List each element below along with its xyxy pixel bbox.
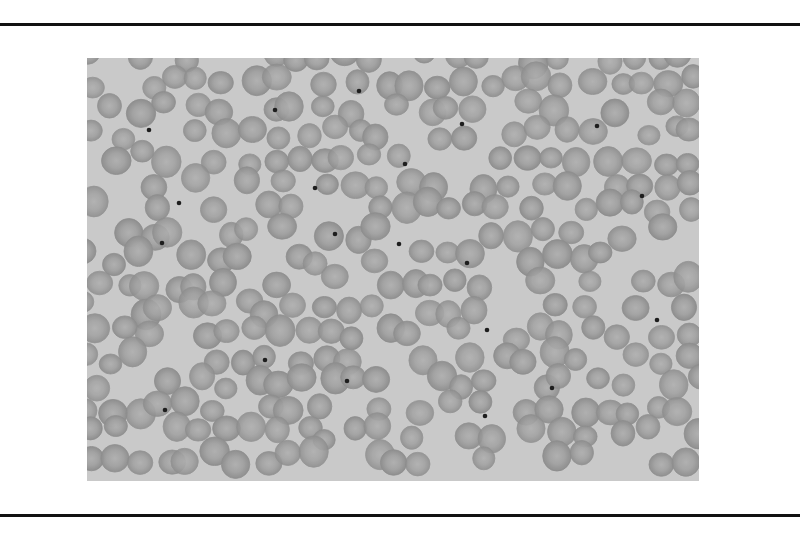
parasite-inclusion — [485, 328, 490, 333]
bottom-rule — [0, 514, 800, 517]
red-blood-cell — [517, 415, 545, 443]
red-blood-cell — [377, 271, 404, 299]
red-blood-cell — [649, 453, 674, 476]
parasite-inclusion — [403, 162, 408, 167]
red-blood-cell — [184, 67, 206, 89]
red-blood-cell — [311, 72, 337, 96]
red-blood-cell — [361, 249, 388, 273]
red-blood-cell — [288, 146, 312, 171]
red-blood-cell — [680, 198, 700, 222]
red-blood-cell — [543, 293, 567, 316]
red-blood-cell — [659, 370, 688, 400]
red-blood-cell — [275, 440, 301, 465]
red-blood-cell — [253, 345, 276, 368]
red-blood-cell — [579, 271, 601, 291]
red-blood-cell — [337, 297, 362, 324]
red-blood-cell — [242, 316, 267, 339]
red-blood-cell — [418, 274, 442, 296]
red-blood-cell — [363, 366, 390, 392]
red-blood-cell — [594, 147, 623, 177]
red-blood-cell — [87, 271, 113, 295]
red-blood-cell — [444, 269, 467, 292]
red-blood-cell — [267, 127, 290, 149]
red-blood-cell — [101, 445, 129, 473]
red-blood-cell — [223, 243, 251, 269]
red-blood-cell — [406, 400, 434, 425]
red-blood-cell — [262, 64, 291, 90]
red-blood-cell — [311, 96, 334, 117]
parasite-inclusion — [550, 386, 555, 391]
parasite-inclusion — [465, 261, 470, 266]
red-blood-cell — [621, 190, 644, 214]
red-blood-cell — [234, 167, 259, 194]
red-blood-cell — [119, 337, 147, 367]
parasite-inclusion — [177, 201, 182, 206]
parasite-inclusion — [163, 408, 168, 413]
red-blood-cell — [514, 146, 541, 171]
red-blood-cell — [521, 62, 551, 91]
parasite-inclusion — [460, 122, 465, 127]
red-blood-cell — [312, 296, 336, 317]
red-blood-cell — [459, 96, 486, 123]
red-blood-cell — [340, 327, 363, 350]
red-blood-cell — [364, 413, 391, 440]
red-blood-cell — [287, 364, 316, 392]
red-blood-cell — [298, 124, 322, 148]
red-blood-cell — [655, 175, 680, 201]
red-blood-cell — [314, 222, 343, 251]
red-blood-cell — [87, 375, 110, 401]
red-blood-cell — [143, 391, 172, 416]
red-blood-cell — [98, 94, 122, 119]
red-blood-cell — [316, 174, 338, 194]
red-blood-cell — [299, 436, 328, 467]
red-blood-cell — [361, 213, 390, 240]
red-blood-cell — [307, 394, 331, 419]
red-blood-cell — [394, 321, 421, 346]
red-blood-cell — [181, 164, 209, 193]
parasite-inclusion — [397, 242, 402, 247]
top-rule — [0, 23, 800, 26]
red-blood-cell — [380, 450, 406, 476]
red-blood-cell — [531, 218, 554, 241]
red-blood-cell — [145, 195, 169, 221]
red-blood-cell — [360, 295, 383, 317]
red-blood-cell — [385, 94, 409, 115]
blood-smear-micrograph — [87, 58, 699, 481]
parasite-inclusion — [483, 414, 488, 419]
red-blood-cell — [124, 236, 153, 267]
red-blood-cell — [401, 426, 423, 449]
red-blood-cell — [152, 146, 182, 177]
red-blood-cell — [587, 368, 610, 389]
red-blood-cell — [672, 448, 699, 476]
red-blood-cell — [553, 172, 581, 201]
red-blood-cell — [638, 125, 660, 145]
parasite-inclusion — [263, 358, 268, 363]
red-blood-cell — [214, 320, 239, 343]
red-blood-cell — [437, 198, 461, 219]
red-blood-cell — [341, 366, 366, 389]
red-blood-cell — [611, 421, 635, 447]
red-blood-cell — [447, 317, 470, 339]
red-blood-cell — [131, 140, 154, 162]
red-blood-cell — [321, 264, 348, 288]
red-blood-cell — [104, 416, 127, 437]
red-blood-cell — [405, 452, 430, 476]
red-blood-cell — [265, 315, 295, 347]
red-blood-cell — [471, 370, 496, 392]
red-blood-cell — [112, 316, 137, 339]
red-blood-cell — [662, 398, 691, 426]
red-blood-cell — [185, 419, 210, 441]
red-blood-cell — [604, 325, 629, 350]
red-blood-cell — [673, 89, 699, 117]
parasite-inclusion — [313, 186, 318, 191]
red-blood-cell — [510, 349, 536, 374]
red-blood-cell — [127, 451, 152, 475]
red-blood-cell — [622, 148, 652, 174]
red-blood-cell — [655, 154, 679, 176]
red-blood-cell — [636, 415, 660, 440]
red-blood-cell — [622, 296, 649, 321]
parasite-inclusion — [345, 379, 350, 384]
red-blood-cell — [479, 223, 504, 249]
red-blood-cell — [623, 343, 649, 367]
red-blood-cell — [520, 196, 544, 220]
